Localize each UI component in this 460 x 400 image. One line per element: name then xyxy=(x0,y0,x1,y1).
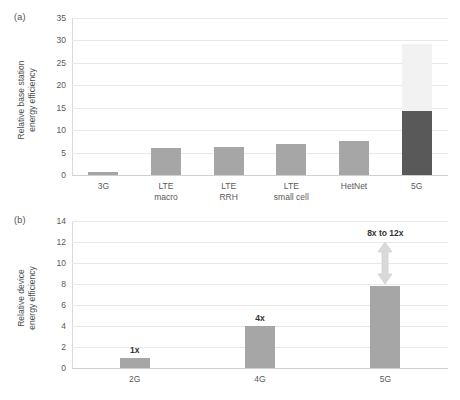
bar-value-label: 4x xyxy=(255,313,264,323)
y-tick-label: 4 xyxy=(61,321,66,331)
y-tick-label: 12 xyxy=(57,237,66,247)
y-tick-label: 20 xyxy=(57,80,66,90)
figure: (a) Relative base station energy efficie… xyxy=(0,0,460,400)
gridline xyxy=(72,63,448,64)
bar xyxy=(339,141,369,175)
range-arrow-icon xyxy=(377,242,393,288)
gridline xyxy=(72,130,448,131)
panel-b-label: (b) xyxy=(14,215,26,225)
bar xyxy=(370,286,400,368)
y-tick-label: 35 xyxy=(57,13,66,23)
x-tick-label: 5G xyxy=(345,374,425,385)
y-tick-label: 6 xyxy=(61,300,66,310)
y-tick-label: 10 xyxy=(57,258,66,268)
gridline xyxy=(72,175,448,176)
y-tick-label: 10 xyxy=(57,125,66,135)
x-tick-label: 5G xyxy=(377,181,457,192)
y-tick-label: 8 xyxy=(61,279,66,289)
gridline xyxy=(72,40,448,41)
panel-a-label: (a) xyxy=(14,12,26,22)
chart-panel-b: (b) Relative device energy efficiency 02… xyxy=(0,205,460,400)
chart-panel-a: (a) Relative base station energy efficie… xyxy=(0,0,460,205)
bar xyxy=(276,144,306,175)
gridline xyxy=(72,85,448,86)
y-tick-label: 0 xyxy=(61,170,66,180)
y-tick-label: 30 xyxy=(57,35,66,45)
gridline xyxy=(72,153,448,154)
panel-a-y-axis-label: Relative base station energy efficiency xyxy=(16,45,38,155)
gridline xyxy=(72,108,448,109)
gridline xyxy=(72,368,448,369)
bar xyxy=(402,44,432,175)
range-annotation-label: 8x to 12x xyxy=(367,228,403,238)
bar xyxy=(151,148,181,175)
x-tick-label: 2G xyxy=(95,374,175,385)
bar xyxy=(120,358,150,369)
panel-b-y-axis-label: Relative device energy efficiency xyxy=(16,243,38,353)
y-tick-label: 2 xyxy=(61,342,66,352)
bar xyxy=(245,326,275,368)
gridline xyxy=(72,18,448,19)
y-tick-label: 5 xyxy=(61,148,66,158)
y-tick-label: 14 xyxy=(57,216,66,226)
y-tick-label: 15 xyxy=(57,103,66,113)
y-tick-label: 0 xyxy=(61,363,66,373)
bar-segment-lower xyxy=(402,111,432,175)
bar xyxy=(88,172,118,175)
gridline xyxy=(72,221,448,222)
bar xyxy=(214,147,244,175)
bar-value-label: 1x xyxy=(130,345,139,355)
plot-area-a: 05101520253035 3GLTE macroLTE RRHLTE sma… xyxy=(72,18,448,176)
y-tick-label: 25 xyxy=(57,58,66,68)
x-tick-label: 4G xyxy=(220,374,300,385)
plot-area-b: 02468101214 1x4x 2G4G5G 8x to 12x xyxy=(72,221,448,369)
